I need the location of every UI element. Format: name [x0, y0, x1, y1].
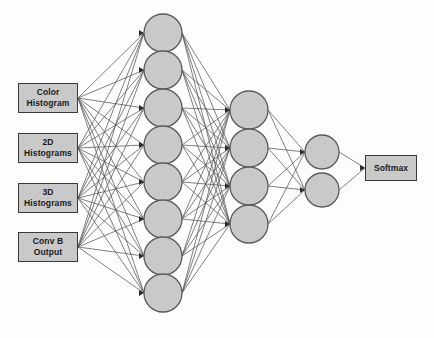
input-label-line1: 2D	[42, 137, 53, 148]
neuron-hidden-layer-1-5	[144, 163, 182, 201]
neuron-hidden-layer-3-1	[305, 135, 339, 169]
edge-hidden1-to-hidden2	[182, 108, 230, 186]
edge-hidden1-to-hidden2	[182, 145, 230, 186]
input-box-3d-histograms: 3D Histograms	[18, 183, 78, 213]
edge-input-to-hidden1	[78, 98, 144, 108]
edge-input-to-hidden1	[78, 70, 144, 198]
edge-hidden2-to-hidden3	[268, 152, 305, 186]
edge-input-to-hidden1	[78, 247, 144, 256]
input-box-conv-b-output: Conv B Output	[18, 232, 78, 262]
edge-hidden2-to-hidden3	[268, 152, 305, 224]
edge-input-to-hidden1	[78, 145, 144, 148]
edge-input-to-hidden1	[78, 33, 144, 148]
neuron-hidden-layer-2-3	[230, 167, 268, 205]
edge-input-to-hidden1	[78, 108, 144, 247]
input-label-line1: Conv B	[33, 236, 63, 247]
edge-hidden1-to-hidden2	[182, 110, 230, 182]
neural-network-diagram: Color Histogram 2D Histograms 3D Histogr…	[0, 0, 434, 338]
input-label-line1: 3D	[42, 187, 53, 198]
edge-hidden1-to-hidden2	[182, 70, 230, 110]
input-label-line2: Histograms	[24, 198, 72, 209]
neuron-hidden-layer-1-8	[144, 274, 182, 312]
edge-input-to-hidden1	[78, 70, 144, 98]
edge-hidden1-to-hidden2	[182, 110, 230, 145]
neuron-hidden-layer-2-1	[230, 91, 268, 129]
edge-hidden1-to-hidden2	[182, 145, 230, 224]
output-label: Softmax	[374, 163, 408, 174]
neuron-hidden-layer-1-3	[144, 89, 182, 127]
input-box-2d-histograms: 2D Histograms	[18, 133, 78, 163]
neuron-hidden-layer-2-2	[230, 129, 268, 167]
neuron-hidden-layer-1-7	[144, 237, 182, 275]
edge-hidden1-to-hidden2	[182, 33, 230, 110]
input-label-line2: Histogram	[27, 98, 70, 109]
edge-input-to-hidden1	[78, 148, 144, 256]
output-box-softmax: Softmax	[365, 155, 417, 181]
neuron-hidden-layer-1-4	[144, 126, 182, 164]
edge-hidden1-to-hidden2	[182, 108, 230, 148]
edge-hidden2-to-hidden3	[268, 190, 305, 224]
input-box-color-histogram: Color Histogram	[18, 83, 78, 113]
edge-input-to-hidden1	[78, 198, 144, 293]
neuron-hidden-layer-1-1	[144, 14, 182, 52]
input-label-line1: Color	[37, 87, 60, 98]
neuron-hidden-layer-2-4	[230, 205, 268, 243]
neuron-hidden-layer-3-2	[305, 173, 339, 207]
input-label-line2: Output	[34, 247, 62, 258]
edge-input-to-hidden1	[78, 247, 144, 293]
edge-hidden1-to-hidden2	[182, 108, 230, 224]
edge-hidden1-to-hidden2	[182, 148, 230, 293]
edge-input-to-hidden1	[78, 70, 144, 148]
edge-hidden2-to-hidden3	[268, 148, 305, 152]
edge-hidden2-to-hidden3	[268, 110, 305, 152]
edge-hidden3-to-output	[339, 152, 365, 168]
neuron-hidden-layer-1-2	[144, 51, 182, 89]
input-label-line2: Histograms	[24, 148, 72, 159]
neuron-hidden-layer-1-6	[144, 200, 182, 238]
edge-hidden3-to-output	[339, 168, 365, 190]
